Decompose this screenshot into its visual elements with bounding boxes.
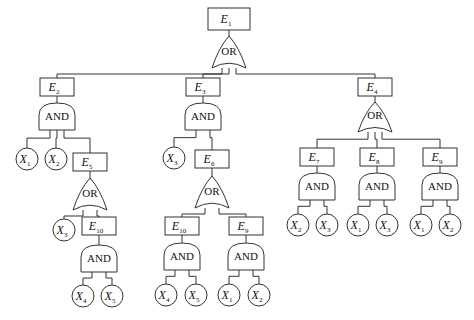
connector-line	[210, 130, 212, 150]
basic-event-x2d: X2	[439, 214, 461, 236]
gate-label: AND	[191, 110, 215, 122]
gate-label: AND	[365, 180, 389, 192]
gate-label: AND	[428, 180, 452, 192]
gate-label: AND	[45, 110, 69, 122]
connector-line	[174, 130, 196, 147]
and-gate-icon: AND	[39, 103, 75, 130]
event-e9a: E9	[423, 148, 457, 166]
fault-tree-diagram: E1E2E3E4E5E6E10E7E8E9E10E9ORANDANDOROROR…	[0, 0, 474, 320]
and-gate-icon: AND	[81, 245, 117, 272]
and-gate-icon: AND	[422, 173, 458, 200]
basic-event-x1d: X1	[410, 214, 432, 236]
or-gate-icon: OR	[358, 102, 392, 132]
connector-line	[229, 270, 239, 284]
gate-label: AND	[87, 252, 111, 264]
connector-line	[182, 208, 205, 217]
connector-line	[253, 270, 259, 284]
nodes: E1E2E3E4E5E6E10E7E8E9E10E9ORANDANDOROROR…	[16, 8, 461, 307]
connector-line	[203, 68, 229, 78]
event-e3: E3	[186, 78, 220, 96]
gate-label: OR	[204, 185, 220, 197]
and-gate-icon: AND	[228, 243, 264, 270]
basic-event-x3c: X3	[316, 214, 338, 236]
gate-label: AND	[305, 180, 329, 192]
basic-event-x4a: X4	[72, 285, 94, 307]
basic-event-x5b: X5	[185, 284, 207, 306]
and-gate-icon: AND	[299, 173, 335, 200]
connector-line	[27, 130, 50, 148]
basic-event-x3b: X3	[53, 219, 75, 241]
event-e5: E5	[73, 153, 107, 171]
and-gate-icon: AND	[359, 173, 395, 200]
gate-label: AND	[170, 250, 194, 262]
connector-line	[64, 130, 90, 153]
connector-line	[97, 210, 99, 217]
basic-event-x4b: X4	[155, 284, 177, 306]
or-gate-icon: OR	[212, 36, 246, 68]
gate-label: OR	[367, 109, 383, 121]
or-gate-icon: OR	[73, 178, 107, 210]
connector-line	[219, 208, 246, 217]
connector-line	[384, 200, 387, 214]
event-e10a: E10	[82, 217, 116, 235]
event-e8: E8	[360, 148, 394, 166]
event-e9b: E9	[229, 217, 263, 235]
connector-line	[189, 270, 196, 284]
basic-event-x5a: X5	[101, 285, 123, 307]
gate-label: OR	[82, 187, 98, 199]
gate-label: AND	[234, 250, 258, 262]
connector-line	[358, 200, 370, 214]
connector-line	[447, 200, 450, 214]
connector-line	[421, 200, 433, 214]
and-gate-icon: AND	[185, 103, 221, 130]
connector-line	[317, 132, 368, 148]
connector-line	[166, 270, 175, 284]
basic-event-x2c: X2	[287, 214, 309, 236]
event-e2: E2	[40, 78, 74, 96]
event-e7: E7	[300, 148, 334, 166]
event-e4: E4	[358, 78, 392, 96]
event-e10b: E10	[165, 217, 199, 235]
connector-line	[57, 68, 222, 78]
connector-line	[236, 68, 375, 78]
basic-event-x2a: X2	[45, 148, 67, 170]
connector-line	[106, 272, 112, 285]
connector-line	[298, 200, 310, 214]
event-e6: E6	[195, 150, 229, 168]
basic-event-x3a: X3	[163, 147, 185, 169]
connector-line	[382, 132, 440, 148]
basic-event-x3d: X3	[376, 214, 398, 236]
fault-tree-svg: E1E2E3E4E5E6E10E7E8E9E10E9ORANDANDOROROR…	[0, 0, 474, 320]
connector-line	[375, 132, 377, 148]
or-gate-icon: OR	[195, 176, 229, 208]
connector-line	[64, 210, 83, 219]
connector-line	[324, 200, 327, 214]
gate-label: OR	[221, 45, 237, 57]
basic-event-x1c: X1	[347, 214, 369, 236]
basic-event-x1a: X1	[16, 148, 38, 170]
connector-line	[83, 272, 92, 285]
and-gate-icon: AND	[164, 243, 200, 270]
event-e1: E1	[208, 8, 250, 30]
basic-event-x1b: X1	[218, 284, 240, 306]
connector-line	[56, 130, 57, 148]
basic-event-x2b: X2	[248, 284, 270, 306]
